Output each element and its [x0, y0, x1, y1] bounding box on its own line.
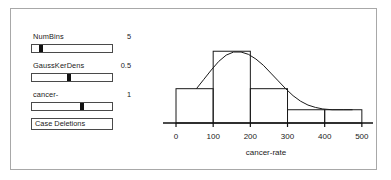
control-gausskerdens: GaussKerDens 0.5 [31, 60, 131, 82]
histogram-bar [176, 89, 213, 123]
histogram-bar [250, 89, 287, 123]
slider-gausskerdens[interactable] [31, 73, 113, 82]
control-gausskerdens-header: GaussKerDens 0.5 [31, 60, 131, 72]
slider-cancer-thumb[interactable] [80, 103, 84, 110]
control-numbins-header: NumBins 5 [31, 31, 131, 43]
x-axis-tick-label: 100 [206, 132, 220, 141]
slider-numbins-thumb[interactable] [39, 45, 43, 52]
slider-gausskerdens-thumb[interactable] [67, 74, 71, 81]
control-gausskerdens-value: 0.5 [121, 60, 131, 72]
app-frame: NumBins 5 GaussKerDens 0.5 cancer- 1 [10, 8, 377, 170]
x-axis-tick-label: 300 [281, 132, 295, 141]
case-deletions-button[interactable]: Case Deletions [31, 118, 113, 130]
control-numbins-label: NumBins [33, 31, 64, 43]
histogram-plot: 0100200300400500 cancer-rate [149, 37, 384, 162]
control-gausskerdens-label: GaussKerDens [33, 60, 84, 72]
histogram-bar [325, 110, 362, 123]
histogram-chart: 0100200300400500 cancer-rate [149, 37, 384, 162]
density-curve-path [196, 52, 352, 110]
slider-numbins[interactable] [31, 44, 113, 53]
control-panel: NumBins 5 GaussKerDens 0.5 cancer- 1 [31, 31, 131, 130]
x-axis-tick-label: 0 [174, 132, 179, 141]
x-axis-title: cancer-rate [246, 148, 287, 157]
control-numbins-value: 5 [127, 31, 131, 43]
x-axis [163, 123, 373, 127]
x-axis-tick-label: 200 [244, 132, 258, 141]
x-axis-tick-label: 500 [355, 132, 369, 141]
histogram-bars [176, 51, 362, 123]
slider-cancer[interactable] [31, 102, 113, 111]
density-curve [196, 52, 352, 110]
control-cancer-value: 1 [127, 89, 131, 101]
control-numbins: NumBins 5 [31, 31, 131, 53]
x-axis-tick-labels: 0100200300400500 [174, 132, 369, 141]
control-cancer-header: cancer- 1 [31, 89, 131, 101]
x-axis-tick-label: 400 [318, 132, 332, 141]
control-cancer: cancer- 1 [31, 89, 131, 111]
histogram-bar [288, 110, 325, 123]
control-cancer-label: cancer- [33, 89, 58, 101]
